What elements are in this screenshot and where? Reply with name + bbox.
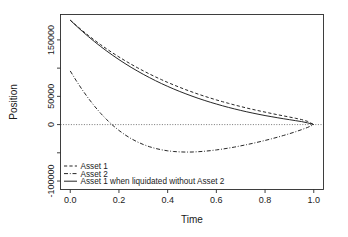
chart-figure: -100000050000150000 0.00.20.40.60.81.0 A… <box>0 0 348 237</box>
x-tick-label: 0.6 <box>210 195 223 205</box>
x-tick-label: 0.0 <box>64 195 77 205</box>
y-tick-label: -100000 <box>46 165 56 198</box>
x-tick-label: 0.2 <box>113 195 126 205</box>
y-tick-label: 150000 <box>46 25 56 55</box>
x-tick-label: 0.8 <box>259 195 272 205</box>
position-vs-time-chart: -100000050000150000 0.00.20.40.60.81.0 A… <box>0 0 348 237</box>
x-axis-title: Time <box>181 214 203 225</box>
y-tick-label: 0 <box>46 122 56 127</box>
y-axis-title: Position <box>8 84 19 120</box>
y-tick-label: 50000 <box>46 84 56 109</box>
x-tick-label: 1.0 <box>308 195 321 205</box>
x-tick-label: 0.4 <box>161 195 174 205</box>
legend-label-3: Asset 1 when liquidated without Asset 2 <box>81 177 225 186</box>
